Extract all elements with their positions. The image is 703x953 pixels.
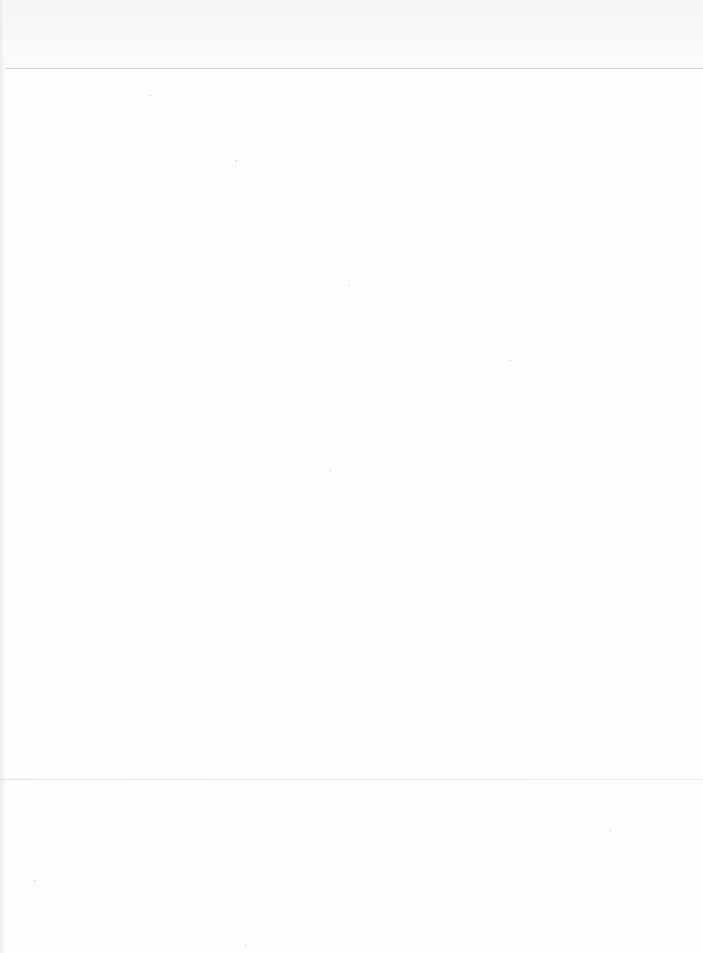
scan-noise xyxy=(245,945,246,946)
scan-noise xyxy=(330,470,331,471)
header-rule xyxy=(0,68,703,69)
scan-noise xyxy=(348,285,349,286)
header-band xyxy=(0,0,703,68)
page-edge-shadow xyxy=(0,0,6,953)
scan-noise xyxy=(610,830,611,831)
scanned-page xyxy=(0,0,703,953)
footer-rule xyxy=(0,779,703,780)
scan-noise xyxy=(510,360,511,361)
scan-noise xyxy=(34,880,35,881)
scan-noise xyxy=(236,160,237,161)
scan-noise xyxy=(150,95,151,96)
